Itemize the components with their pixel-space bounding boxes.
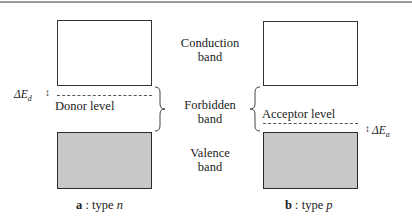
panel-b-caption: b : type p — [285, 198, 333, 213]
forbidden-band-label: Forbidden band — [172, 98, 248, 126]
delta-subscript: a — [386, 130, 390, 139]
panel-a-double-arrow-icon: ↕ — [45, 88, 50, 98]
caption-type: p — [326, 198, 332, 212]
label-line: Forbidden — [172, 98, 248, 112]
top-rule — [0, 1, 412, 3]
panel-b-double-arrow-icon: ↕ — [365, 124, 370, 134]
panel-a-delta-ed: ΔEd — [14, 88, 32, 105]
panel-a-conduction-band — [57, 20, 152, 86]
panel-a-valence-band — [57, 132, 152, 189]
conduction-band-label: Conduction band — [172, 36, 248, 64]
panel-a-brace-icon — [154, 86, 168, 132]
panel-a-donor-level-line — [57, 95, 152, 96]
panel-a-donor-level-label: Donor level — [55, 99, 114, 113]
panel-b-conduction-band — [263, 21, 358, 86]
panel-b-valence-band — [263, 132, 358, 189]
caption-type: n — [117, 198, 123, 212]
panel-b-acceptor-level-label: Acceptor level — [262, 107, 335, 121]
label-line: band — [172, 160, 248, 174]
panel-b-acceptor-level-line — [263, 123, 358, 124]
label-line: band — [172, 50, 248, 64]
caption-separator: : type — [82, 198, 116, 212]
label-line: band — [172, 112, 248, 126]
valence-band-label: Valence band — [172, 146, 248, 174]
caption-letter: b — [285, 198, 292, 212]
delta-symbol: ΔE — [14, 88, 28, 100]
caption-separator: : type — [292, 198, 326, 212]
panel-b-delta-ea: ΔEa — [372, 124, 390, 141]
panel-b-brace-icon — [247, 86, 261, 132]
label-line: Conduction — [172, 36, 248, 50]
delta-symbol: ΔE — [372, 124, 386, 136]
delta-subscript: d — [28, 94, 32, 103]
label-line: Valence — [172, 146, 248, 160]
panel-a-caption: a : type n — [76, 198, 123, 213]
